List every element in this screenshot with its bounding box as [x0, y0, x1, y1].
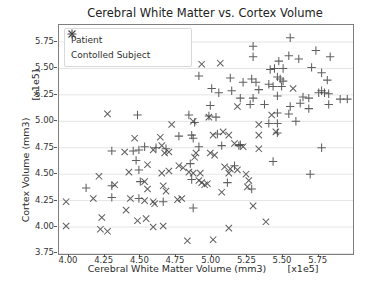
y-tick: [54, 41, 57, 42]
control-point: [325, 100, 333, 108]
control-point: [306, 170, 314, 178]
patient-point: [217, 60, 223, 66]
control-point: [273, 109, 281, 117]
patient-point: [210, 237, 216, 243]
control-point: [208, 84, 216, 92]
patient-point: [256, 146, 262, 152]
patient-point: [226, 225, 232, 231]
control-point: [108, 182, 116, 190]
control-point: [266, 65, 274, 73]
control-point: [218, 141, 226, 149]
patient-point: [123, 207, 129, 213]
patient-point: [234, 103, 240, 109]
patient-point: [263, 219, 269, 225]
patient-point: [144, 186, 150, 192]
patient-point: [160, 223, 166, 229]
legend-label-control: Contolled Subject: [71, 50, 150, 60]
chart-title: Cerebral White Matter vs. Cortex Volume: [58, 6, 352, 20]
control-point: [265, 119, 273, 127]
patient-point: [226, 132, 232, 138]
patient-point: [159, 170, 165, 176]
patient-point: [151, 201, 157, 207]
control-point: [185, 111, 193, 119]
control-point: [273, 119, 281, 127]
control-point: [273, 92, 281, 100]
control-point: [286, 102, 294, 110]
control-point: [285, 110, 293, 118]
y-tick: [54, 94, 57, 95]
patient-point: [256, 132, 262, 138]
patient-point: [246, 177, 252, 183]
patient-point: [169, 121, 175, 127]
patient-point: [104, 228, 110, 234]
x-axis-offset-label: [x1e5]: [283, 263, 323, 274]
patient-point: [221, 164, 227, 170]
control-point: [317, 144, 325, 152]
control-point: [343, 95, 351, 103]
patient-point: [199, 61, 205, 67]
control-point: [269, 82, 277, 90]
x-axis-label: Cerebral White Matter Volume (mm3): [58, 263, 296, 274]
patient-point: [190, 170, 196, 176]
patient-point: [219, 189, 225, 195]
patient-point: [256, 121, 262, 127]
legend-entry-patient: Patient: [71, 32, 185, 47]
y-tick: [54, 252, 57, 253]
y-tick: [54, 173, 57, 174]
patient-point: [99, 214, 105, 220]
control-point: [186, 159, 194, 167]
control-point: [82, 184, 90, 192]
figure: Cerebral White Matter vs. Cortex Volume …: [0, 0, 373, 288]
control-point: [239, 78, 247, 86]
patient-point: [290, 85, 296, 91]
control-point: [223, 178, 231, 186]
control-point: [249, 53, 257, 61]
control-point: [188, 175, 196, 183]
control-point: [292, 117, 300, 125]
plus-marker-icon: [65, 29, 79, 39]
patient-point: [144, 162, 150, 168]
y-axis-offset-label: [x1e5]: [30, 63, 42, 107]
patient-point: [234, 167, 240, 173]
control-point: [132, 156, 140, 164]
control-point: [279, 64, 287, 72]
control-point: [206, 101, 214, 109]
control-point: [205, 112, 213, 120]
y-tick-label: 5.75: [24, 36, 54, 46]
patient-point: [122, 149, 128, 155]
control-point: [255, 85, 263, 93]
control-point: [189, 204, 197, 212]
control-point: [317, 69, 325, 77]
control-point: [249, 42, 257, 50]
y-tick: [54, 147, 57, 148]
patient-point: [210, 132, 216, 138]
patient-point: [112, 182, 118, 188]
control-point: [323, 76, 331, 84]
control-point: [195, 143, 203, 151]
control-point: [275, 57, 283, 65]
patient-point: [166, 168, 172, 174]
control-point: [133, 111, 141, 119]
patient-point: [197, 170, 203, 176]
control-point: [175, 132, 183, 140]
legend-entry-control: Contolled Subject: [71, 47, 185, 62]
plot-area: Patient Contolled Subject: [58, 24, 354, 255]
control-point: [326, 53, 334, 61]
patient-point: [184, 238, 190, 244]
legend: Patient Contolled Subject: [64, 28, 192, 67]
control-point: [295, 55, 303, 63]
patient-point: [166, 149, 172, 155]
control-point: [277, 82, 285, 90]
y-axis-label: Cortex Volume (mm3): [20, 110, 32, 230]
patient-point: [161, 150, 167, 156]
control-point: [226, 74, 234, 82]
patient-point: [131, 135, 137, 141]
patient-point: [273, 129, 279, 135]
control-point: [269, 157, 277, 165]
patient-point: [134, 218, 140, 224]
control-point: [307, 63, 315, 71]
control-point: [228, 87, 236, 95]
patient-point: [63, 223, 69, 229]
control-point: [215, 89, 223, 97]
control-point: [135, 166, 143, 174]
